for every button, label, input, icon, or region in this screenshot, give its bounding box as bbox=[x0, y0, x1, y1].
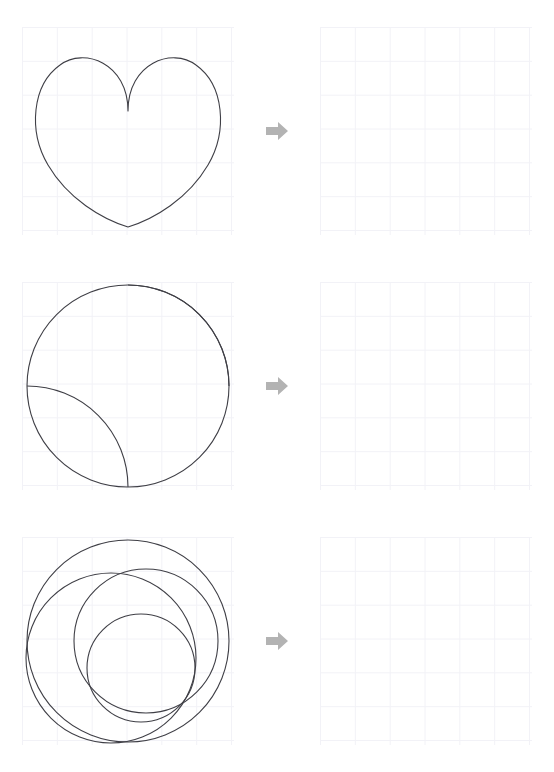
puzzle-row bbox=[0, 513, 554, 768]
arrow-right-icon bbox=[264, 120, 290, 142]
source-panel-row-2[interactable] bbox=[22, 282, 234, 490]
grid-background bbox=[22, 537, 234, 745]
target-panel-row-1[interactable] bbox=[320, 27, 532, 235]
puzzle-row bbox=[0, 258, 554, 513]
target-panel-row-2[interactable] bbox=[320, 282, 532, 490]
source-panel-row-1[interactable] bbox=[22, 27, 234, 235]
worksheet-sheet bbox=[0, 0, 554, 772]
arrow-cell-row-3 bbox=[234, 630, 320, 652]
target-panel-row-3[interactable] bbox=[320, 537, 532, 745]
grid-background bbox=[22, 27, 234, 235]
arrow-right-icon bbox=[264, 375, 290, 397]
source-panel-row-3[interactable] bbox=[22, 537, 234, 745]
grid-background bbox=[320, 27, 532, 235]
arrow-cell-row-1 bbox=[234, 120, 320, 142]
puzzle-row bbox=[0, 3, 554, 258]
grid-background bbox=[320, 537, 532, 745]
grid-background bbox=[22, 282, 234, 490]
grid-background bbox=[320, 282, 532, 490]
arrow-right-icon bbox=[264, 630, 290, 652]
arrow-cell-row-2 bbox=[234, 375, 320, 397]
